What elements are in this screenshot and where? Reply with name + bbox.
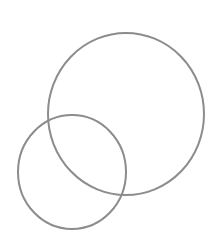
diagram-canvas <box>0 0 217 251</box>
